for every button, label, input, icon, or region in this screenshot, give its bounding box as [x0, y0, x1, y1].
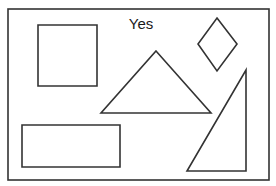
- right-triangle-shape: [187, 70, 246, 171]
- shapes-diagram: Yes: [0, 0, 276, 186]
- square-shape: [38, 25, 97, 86]
- triangle-shape: [101, 51, 211, 113]
- diagram-title: Yes: [129, 15, 153, 32]
- rectangle-shape: [22, 125, 120, 167]
- diamond-shape: [198, 18, 237, 71]
